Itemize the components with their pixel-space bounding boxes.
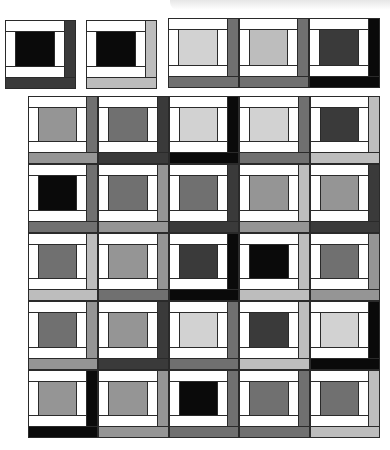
right-bar (157, 370, 169, 427)
center-square (179, 244, 218, 279)
top-block-1 (5, 20, 76, 89)
right-bar (368, 370, 380, 427)
grid-block-r3c4 (239, 233, 310, 301)
center-square (108, 381, 148, 416)
center-square (179, 312, 218, 348)
bottom-bar (310, 152, 380, 164)
center-square (108, 312, 148, 348)
bottom-bar (98, 152, 169, 164)
center-square (320, 312, 359, 348)
center-square (249, 381, 289, 416)
center-square (38, 312, 77, 348)
bottom-bar (169, 289, 239, 301)
center-square (249, 244, 289, 279)
bottom-bar (239, 221, 310, 233)
right-bar (368, 18, 380, 77)
right-bar (86, 370, 98, 427)
bottom-bar (169, 358, 239, 370)
bottom-bar (239, 76, 309, 88)
right-bar (227, 233, 239, 290)
bottom-bar (239, 152, 310, 164)
grid-block-r1c2 (98, 96, 169, 164)
grid-block-r5c2 (98, 370, 169, 438)
center-square (38, 381, 77, 416)
bottom-bar (239, 358, 310, 370)
right-bar (64, 20, 76, 78)
right-bar (86, 96, 98, 153)
bottom-bar (239, 289, 310, 301)
center-square (38, 107, 77, 142)
right-bar (368, 96, 380, 153)
center-square (320, 381, 359, 416)
center-square (179, 175, 218, 211)
bottom-bar (98, 221, 169, 233)
center-square (38, 175, 77, 211)
center-square (249, 312, 289, 348)
bottom-bar (5, 77, 76, 89)
center-square (108, 107, 148, 142)
grid-block-r2c1 (28, 164, 98, 233)
center-square (249, 175, 289, 211)
center-square (320, 107, 359, 142)
center-square (320, 244, 359, 279)
right-bar (157, 164, 169, 222)
right-bar (298, 301, 310, 359)
top-block-4 (239, 18, 309, 88)
grid-block-r4c3 (169, 301, 239, 370)
right-bar (297, 18, 309, 77)
bottom-bar (310, 426, 380, 438)
right-bar (227, 164, 239, 222)
grid-block-r3c2 (98, 233, 169, 301)
right-bar (157, 233, 169, 290)
bottom-bar (98, 426, 169, 438)
bottom-bar (169, 152, 239, 164)
right-bar (298, 233, 310, 290)
right-bar (86, 301, 98, 359)
grid-block-r2c2 (98, 164, 169, 233)
bottom-bar (310, 221, 380, 233)
bottom-bar (28, 289, 98, 301)
center-square (178, 29, 218, 66)
grid-block-r1c4 (239, 96, 310, 164)
right-bar (227, 96, 239, 153)
grid-block-r5c4 (239, 370, 310, 438)
bottom-bar (169, 221, 239, 233)
right-bar (368, 164, 380, 222)
right-bar (157, 301, 169, 359)
center-square (15, 31, 55, 67)
grid-block-r4c2 (98, 301, 169, 370)
grid-block-r5c5 (310, 370, 380, 438)
grid-block-r3c1 (28, 233, 98, 301)
grid-block-r4c1 (28, 301, 98, 370)
grid-block-r4c4 (239, 301, 310, 370)
center-square (108, 175, 148, 211)
grid-block-r2c5 (310, 164, 380, 233)
top-block-3 (168, 18, 239, 88)
right-bar (368, 233, 380, 290)
top-block-2 (86, 20, 157, 89)
right-bar (298, 164, 310, 222)
bottom-bar (310, 358, 380, 370)
center-square (249, 107, 289, 142)
bottom-bar (86, 77, 157, 89)
grid-block-r5c3 (169, 370, 239, 438)
grid-block-r3c3 (169, 233, 239, 301)
bottom-bar (28, 358, 98, 370)
bottom-bar (28, 221, 98, 233)
right-bar (86, 233, 98, 290)
center-square (249, 29, 288, 66)
right-bar (298, 96, 310, 153)
center-square (108, 244, 148, 279)
center-square (320, 175, 359, 211)
grid-block-r1c1 (28, 96, 98, 164)
center-square (96, 31, 136, 67)
bottom-bar (98, 358, 169, 370)
top-edge-shadow (170, 0, 390, 10)
center-square (319, 29, 359, 66)
top-block-5 (309, 18, 380, 88)
grid-block-r1c3 (169, 96, 239, 164)
center-square (179, 107, 218, 142)
bottom-bar (168, 76, 239, 88)
grid-block-r5c1 (28, 370, 98, 438)
bottom-bar (239, 426, 310, 438)
